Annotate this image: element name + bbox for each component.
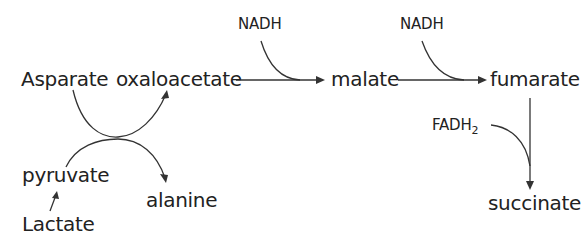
node-lactate: Lactate [22,214,95,234]
fadh2-curve [491,125,530,166]
arrow-lactate-to-pyruvate [50,191,59,211]
arrow-fumarate-to-succinate [491,98,534,190]
node-pyruvate: pyruvate [22,165,109,185]
nadh-curve-2 [422,41,464,80]
nadh-curve-1 [261,41,300,80]
node-fumarate: fumarate [490,69,580,89]
pathway-diagram: Asparate oxaloacetate malate fumarate su… [0,0,587,239]
fadh2-base: FADH [432,116,472,134]
arrow-oxaloacetate-to-malate [236,41,325,84]
node-alanine: alanine [146,190,217,210]
fadh2-subscript: 2 [472,124,479,137]
arrow-asparate-to-oxaloacetate [73,90,169,137]
cofactor-nadh-1: NADH [238,17,282,32]
node-succinate: succinate [488,193,581,213]
node-malate: malate [331,69,399,89]
arrow-malate-to-fumarate [398,41,487,84]
node-oxaloacetate: oxaloacetate [116,69,242,89]
cofactor-fadh2: FADH2 [432,118,478,133]
cofactor-nadh-2: NADH [400,17,444,32]
node-asparate: Asparate [21,69,108,89]
